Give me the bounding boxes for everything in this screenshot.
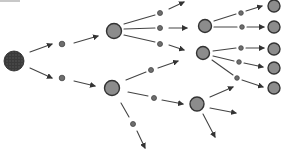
- cell-node-icon: [199, 20, 212, 33]
- arrow-edge: [30, 44, 52, 52]
- arrow-edge: [246, 6, 262, 11]
- connector-line: [212, 60, 233, 75]
- root-cell-icon: [4, 51, 24, 71]
- cell-division-diagram: [0, 0, 286, 158]
- arrow-edge: [210, 108, 236, 113]
- cell-node-icon: [107, 24, 122, 39]
- intermediate-dot-icon: [239, 11, 244, 16]
- intermediate-dot-icon: [235, 76, 240, 81]
- cell-node-icon: [190, 97, 204, 111]
- cell-node-icon: [105, 81, 120, 96]
- intermediate-dot-icon: [152, 96, 157, 101]
- connector-line: [126, 72, 146, 80]
- connector-line: [124, 35, 155, 42]
- connector-line: [128, 92, 148, 96]
- connector-line: [213, 48, 236, 51]
- cell-node-icon: [268, 43, 280, 55]
- arrow-edge: [169, 2, 184, 9]
- intermediate-dot-icon: [131, 122, 136, 127]
- intermediate-dot-icon: [239, 46, 244, 51]
- intermediate-dot-icon: [158, 26, 163, 31]
- arrow-edge: [210, 87, 233, 97]
- arrow-edges: [30, 2, 264, 148]
- connector-line: [124, 15, 155, 24]
- cell-node-icon: [268, 21, 280, 33]
- arrow-edge: [244, 63, 263, 67]
- arrow-edge: [74, 36, 98, 43]
- cell-node-icon: [268, 0, 280, 12]
- arrow-edge: [137, 131, 145, 148]
- cell-node-icon: [197, 47, 210, 60]
- arrow-edge: [169, 45, 184, 50]
- arrow-edge: [158, 61, 178, 68]
- intermediate-dot-icon: [149, 68, 154, 73]
- arrow-edge: [162, 100, 183, 104]
- cell-node-icon: [268, 82, 280, 94]
- arrow-edge: [242, 80, 263, 87]
- arrow-edge: [74, 81, 95, 86]
- connector-line: [124, 28, 155, 29]
- intermediate-dot-icon: [158, 11, 163, 16]
- cell-node-icon: [268, 62, 280, 74]
- intermediate-dot-icon: [158, 42, 163, 47]
- intermediate-dot-icon: [240, 25, 245, 30]
- connector-line: [213, 56, 234, 61]
- intermediate-dot-icon: [59, 75, 65, 81]
- connector-line: [214, 14, 236, 21]
- arrow-edge: [30, 68, 52, 78]
- intermediate-dot-icon: [237, 60, 242, 65]
- connector-line: [121, 103, 129, 117]
- intermediate-dot-icon: [59, 41, 65, 47]
- arrow-edge: [203, 114, 215, 137]
